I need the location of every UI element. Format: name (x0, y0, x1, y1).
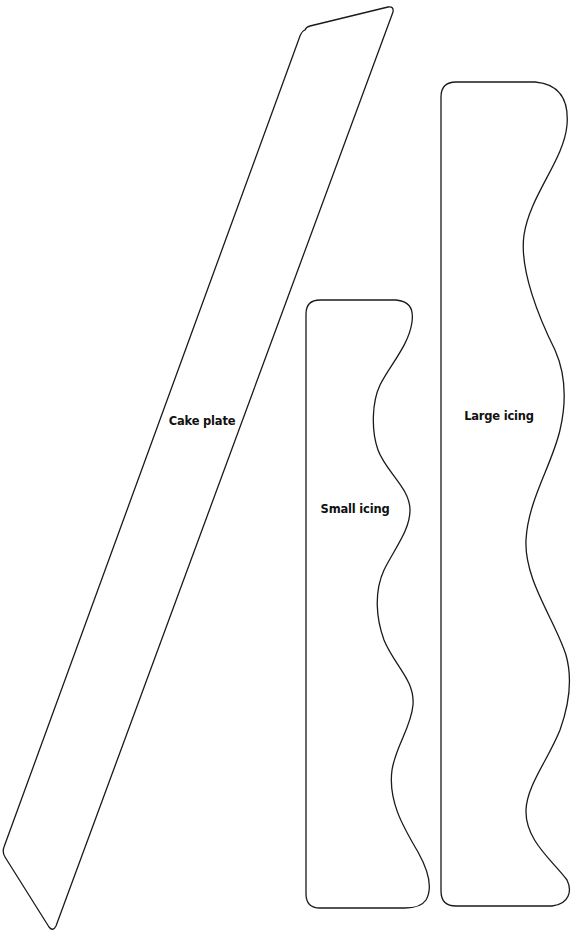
small-icing-outline (306, 300, 429, 908)
large-icing-outline (441, 82, 570, 906)
small-icing-label: Small icing (321, 502, 390, 516)
template-canvas (0, 0, 582, 941)
cake-plate-label: Cake plate (169, 414, 236, 428)
large-icing-label: Large icing (464, 409, 534, 423)
